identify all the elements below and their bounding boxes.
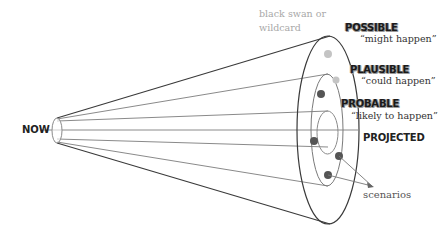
wildcard-note: black swan or wildcard — [259, 7, 326, 35]
plausible-label: PLAUSIBLE — [350, 64, 409, 75]
projected-label: PROJECTED — [363, 132, 425, 143]
scenario-dot — [310, 137, 318, 145]
scenario-arrow-tip — [367, 182, 374, 188]
now-ellipse — [52, 118, 62, 143]
scenarios-label: scenarios — [363, 189, 411, 200]
probable-ellipse — [317, 111, 338, 154]
wildcard-note-line2: wildcard — [259, 21, 326, 35]
cone-edge-bottom — [57, 143, 330, 224]
wildcard-dot — [324, 50, 332, 58]
possible-quote: “might happen” — [360, 33, 436, 44]
probable-edge-bottom — [57, 139, 328, 147]
probable-quote: “likely to happen” — [351, 110, 438, 121]
scenario-dot — [317, 90, 325, 98]
plausible-edge-bottom — [57, 142, 328, 186]
possible-label: POSSIBLE — [345, 22, 398, 33]
plausible-light-dot — [333, 77, 340, 84]
now-label: NOW — [22, 124, 50, 135]
wildcard-note-line1: black swan or — [259, 7, 326, 21]
cone-edge-top — [57, 36, 330, 118]
plausible-quote: “could happen” — [361, 75, 436, 86]
probable-label: PROBABLE — [341, 98, 399, 109]
